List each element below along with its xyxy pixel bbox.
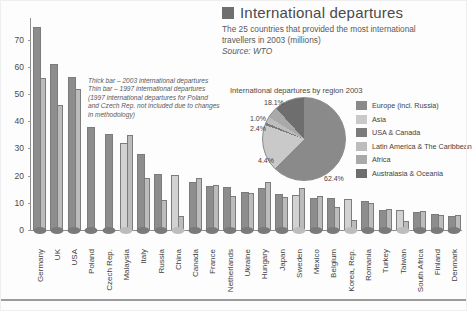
y-axis-tick-label: 40 [15,116,24,126]
bar-base-marker-icon [206,227,219,234]
pie-legend-label: Latin America & The Caribbean [372,142,472,151]
pie-legend-item[interactable]: Asia [356,113,472,127]
x-axis-label-text: Canada [191,249,200,277]
y-axis-tick-mark [28,94,31,95]
bar-base-marker-icon [171,227,184,234]
y-axis-labels: 010203040506070 [0,14,28,230]
bar-base-marker-icon [154,227,167,234]
x-axis-label-text: Czech Rep. [104,249,113,291]
bar-group[interactable] [83,14,100,230]
bar-2003 [292,195,300,230]
pie-slice-percentage: 4.4% [258,157,274,164]
bar-group[interactable] [187,14,204,230]
y-axis-tick-label: 20 [15,171,24,181]
pie-legend-swatch-icon [356,142,367,151]
pie-chart [262,97,346,181]
x-axis-label-text: Belgium [329,249,338,278]
x-axis-label-text: Turkey [381,249,390,273]
y-axis-tick-mark [28,230,31,231]
y-axis-tick-mark [28,121,31,122]
pie-chart-panel: International departures by region 2003 … [228,86,466,190]
x-axis-label-text: Hungary [260,249,269,279]
bar-base-marker-icon [137,227,150,234]
x-axis-label-text: Italy [139,249,148,264]
bar-group[interactable] [204,14,221,230]
bar-base-marker-icon [85,227,98,234]
x-axis-label-text: Netherlands [225,249,234,292]
bar-base-marker-icon [327,227,340,234]
bar-group[interactable] [117,14,134,230]
pie-chart-body: Europe (incl. Russia)AsiaUSA & CanadaLat… [228,97,466,189]
bar-group[interactable] [152,14,169,230]
pie-slice-percentage: 2.4% [250,125,266,132]
bar-group[interactable] [31,14,48,230]
bar-base-marker-icon [431,227,444,234]
bar-base-marker-icon [361,227,374,234]
x-axis-label-text: Russia [156,249,165,273]
pie-legend-label: Africa [372,155,390,164]
pie-slice-percentage: 18.1% [264,99,284,106]
pie-legend-item[interactable]: USA & Canada [356,126,472,140]
pie-slice-percentage: 1.0% [250,115,266,122]
bar-2003 [120,143,128,230]
bar-2003 [68,77,76,230]
bar-base-marker-icon [292,227,305,234]
bar-base-marker-icon [102,227,115,234]
y-axis-tick-label: 10 [15,198,24,208]
bar-2003 [33,27,41,230]
pie-legend-swatch-icon [356,155,367,164]
bar-base-marker-icon [258,227,271,234]
bar-base-marker-icon [120,227,133,234]
x-axis-label-text: France [208,249,217,274]
y-axis-tick-mark [28,203,31,204]
x-axis-label-text: Sweden [294,249,303,278]
bar-base-marker-icon [413,227,426,234]
bar-2003 [87,127,95,230]
pie-legend-swatch-icon [356,128,367,137]
bar-base-marker-icon [379,227,392,234]
bar-base-marker-icon [275,227,288,234]
x-axis-label-text: Japan [277,249,286,271]
x-axis-label-text: China [173,249,182,270]
pie-legend-item[interactable]: Europe (incl. Russia) [356,99,472,113]
pie-legend-swatch-icon [356,115,367,124]
y-axis-tick-mark [28,148,31,149]
pie-legend-swatch-icon [356,101,367,110]
x-axis-label-text: Malaysia [122,249,131,281]
bar-group[interactable] [66,14,83,230]
footer-divider [0,299,467,301]
x-axis-label-text: Poland [87,249,96,274]
bar-2003 [189,182,197,230]
pie-legend-item[interactable]: Latin America & The Caribbean [356,140,472,154]
y-axis-tick-label: 50 [15,89,24,99]
bar-base-marker-icon [310,227,323,234]
x-axis-label-text: UK [52,249,61,260]
pie-legend: Europe (incl. Russia)AsiaUSA & CanadaLat… [356,99,472,180]
bar-2003 [327,198,335,230]
pie-chart-title: International departures by region 2003 [230,86,466,95]
bar-2003 [258,188,266,230]
pie-legend-item[interactable]: Australasia & Oceania [356,167,472,181]
pie-legend-label: Australasia & Oceania [372,169,443,178]
bar-group[interactable] [48,14,65,230]
bar-group[interactable] [169,14,186,230]
y-axis-tick-label: 70 [15,35,24,45]
bar-base-marker-icon [33,227,46,234]
bar-2003 [344,199,352,230]
pie-legend-label: Europe (incl. Russia) [372,101,439,110]
x-axis-label-text: Finland [433,249,442,275]
bar-base-marker-icon [448,227,461,234]
x-axis-label-text: South Africa [415,249,424,292]
bar-2003 [275,194,283,230]
y-axis-tick-label: 0 [19,225,24,235]
bar-base-marker-icon [223,227,236,234]
x-axis-label-text: Korea, Rep. [346,249,355,292]
bar-group[interactable] [100,14,117,230]
pie-legend-item[interactable]: Africa [356,153,472,167]
bar-2003 [223,187,231,230]
bar-group[interactable] [135,14,152,230]
x-axis-label-text: Denmark [450,249,459,281]
x-axis-label-text: Germany [35,249,44,282]
bar-legend-note: Thick bar – 2003 international departure… [88,77,220,119]
